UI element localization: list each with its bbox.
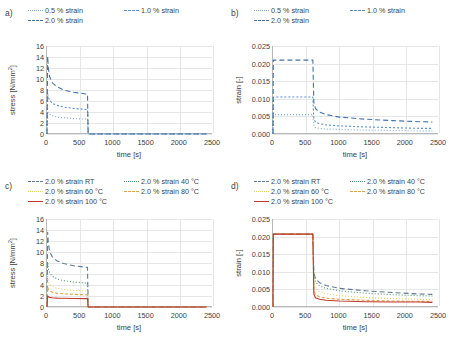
ytick-label: 8 xyxy=(2,86,44,95)
series-line-c-2 xyxy=(47,277,206,307)
panel-d-plot xyxy=(272,219,438,307)
legend-label-a-0: 0.5 % strain xyxy=(45,6,83,15)
legend-swatch-a-0 xyxy=(28,10,43,11)
series-line-b-1 xyxy=(273,97,432,134)
panel-c-legend: 2.0 % strain RT2.0 % strain 40 °C2.0 % s… xyxy=(28,177,220,207)
ytick-label: 0.020 xyxy=(228,232,270,241)
ytick-label: 0.000 xyxy=(228,130,270,139)
legend-item-b-2[interactable]: 2.0 % strain xyxy=(254,16,350,25)
legend-label-a-1: 1.0 % strain xyxy=(141,6,179,15)
panel-d-legend: 2.0 % strain RT2.0 % strain 40 °C2.0 % s… xyxy=(254,177,446,207)
legend-item-c-3[interactable]: 2.0 % strain 80 °C xyxy=(124,187,220,196)
legend-label-d-2: 2.0 % strain 60 °C xyxy=(271,187,329,196)
curves-b xyxy=(273,46,439,134)
ytick-label: 6 xyxy=(2,270,44,279)
legend-item-a-1[interactable]: 1.0 % strain xyxy=(124,6,220,15)
legend-swatch-d-2 xyxy=(254,191,269,192)
legend-swatch-b-0 xyxy=(254,10,269,11)
legend-item-d-0[interactable]: 2.0 % strain RT xyxy=(254,177,350,186)
series-line-a-1 xyxy=(47,94,206,134)
legend-item-d-2[interactable]: 2.0 % strain 60 °C xyxy=(254,187,350,196)
legend-label-d-0: 2.0 % strain RT xyxy=(271,177,320,186)
legend-item-a-0[interactable]: 0.5 % strain xyxy=(28,6,124,15)
ytick-label: 0.010 xyxy=(228,267,270,276)
panel-a-plot xyxy=(46,46,212,134)
xtick-label: 2500 xyxy=(430,311,446,320)
ytick-label: 0.025 xyxy=(228,215,270,224)
legend-swatch-a-1 xyxy=(124,10,139,11)
legend-item-d-4[interactable]: 2.0 % strain 100 °C xyxy=(254,197,446,206)
panel-a-xlabel: time [s] xyxy=(46,150,212,159)
ytick-label: 0.010 xyxy=(228,94,270,103)
ytick-label: 0 xyxy=(2,130,44,139)
legend-label-c-1: 2.0 % strain 40 °C xyxy=(141,177,199,186)
legend-label-b-2: 2.0 % strain xyxy=(271,16,309,25)
legend-label-b-1: 1.0 % strain xyxy=(367,6,405,15)
legend-item-c-4[interactable]: 2.0 % strain 100 °C xyxy=(28,197,220,206)
panel-b: b) 0.5 % strain1.0 % strain2.0 % strain … xyxy=(226,0,452,173)
legend-item-b-0[interactable]: 0.5 % strain xyxy=(254,6,350,15)
panel-b-legend: 0.5 % strain1.0 % strain2.0 % strain xyxy=(254,6,446,26)
xtick-label: 2500 xyxy=(430,138,446,147)
gridline-v xyxy=(439,219,440,306)
series-line-a-2 xyxy=(47,56,206,134)
legend-label-c-3: 2.0 % strain 80 °C xyxy=(141,187,199,196)
legend-item-c-0[interactable]: 2.0 % strain RT xyxy=(28,177,124,186)
ytick-label: 16 xyxy=(2,215,44,224)
series-line-c-4 xyxy=(47,296,206,307)
xtick-label: 500 xyxy=(299,138,311,147)
xtick-label: 0 xyxy=(270,138,274,147)
series-line-d-2 xyxy=(273,234,432,307)
xtick-label: 1000 xyxy=(330,138,346,147)
ytick-label: 10 xyxy=(2,248,44,257)
ytick-label: 12 xyxy=(2,64,44,73)
xtick-label: 1500 xyxy=(137,138,153,147)
panel-c-xlabel: time [s] xyxy=(46,323,212,332)
xtick-label: 1500 xyxy=(137,311,153,320)
series-line-d-3 xyxy=(273,234,432,307)
xtick-label: 2500 xyxy=(204,138,220,147)
ytick-label: 2 xyxy=(2,119,44,128)
series-line-c-0 xyxy=(47,232,206,307)
legend-item-b-1[interactable]: 1.0 % strain xyxy=(350,6,446,15)
ytick-label: 16 xyxy=(2,42,44,51)
panel-b-tag: b) xyxy=(231,8,239,18)
legend-item-d-3[interactable]: 2.0 % strain 80 °C xyxy=(350,187,446,196)
ytick-label: 4 xyxy=(2,281,44,290)
panel-a-tag: a) xyxy=(5,8,13,18)
curves-c xyxy=(47,219,213,307)
ytick-label: 0 xyxy=(2,303,44,312)
legend-swatch-a-2 xyxy=(28,20,43,21)
legend-label-c-2: 2.0 % strain 60 °C xyxy=(45,187,103,196)
xtick-label: 1000 xyxy=(104,311,120,320)
legend-item-c-2[interactable]: 2.0 % strain 60 °C xyxy=(28,187,124,196)
legend-swatch-b-1 xyxy=(350,10,365,11)
legend-label-c-0: 2.0 % strain RT xyxy=(45,177,94,186)
legend-label-c-4: 2.0 % strain 100 °C xyxy=(45,197,107,206)
ytick-label: 0.015 xyxy=(228,250,270,259)
panel-a-legend: 0.5 % strain1.0 % strain2.0 % strain xyxy=(28,6,220,26)
legend-swatch-c-4 xyxy=(28,201,43,202)
legend-item-a-2[interactable]: 2.0 % strain xyxy=(28,16,124,25)
gridline-v xyxy=(213,219,214,306)
panel-d-tag: d) xyxy=(231,181,239,191)
curves-a xyxy=(47,46,213,134)
legend-swatch-d-4 xyxy=(254,201,269,202)
series-line-d-0 xyxy=(273,234,432,307)
legend-item-c-1[interactable]: 2.0 % strain 40 °C xyxy=(124,177,220,186)
legend-swatch-b-2 xyxy=(254,20,269,21)
legend-swatch-d-3 xyxy=(350,191,365,192)
xtick-label: 500 xyxy=(299,311,311,320)
ytick-label: 2 xyxy=(2,292,44,301)
panel-c: c) 2.0 % strain RT2.0 % strain 40 °C2.0 … xyxy=(0,173,226,346)
legend-label-a-2: 2.0 % strain xyxy=(45,16,83,25)
legend-swatch-c-3 xyxy=(124,191,139,192)
xtick-label: 1000 xyxy=(104,138,120,147)
ytick-label: 0.005 xyxy=(228,112,270,121)
series-line-a-0 xyxy=(47,111,206,134)
xtick-label: 1500 xyxy=(363,311,379,320)
legend-swatch-d-1 xyxy=(350,181,365,182)
ytick-label: 10 xyxy=(2,75,44,84)
legend-item-d-1[interactable]: 2.0 % strain 40 °C xyxy=(350,177,446,186)
curves-d xyxy=(273,219,439,307)
